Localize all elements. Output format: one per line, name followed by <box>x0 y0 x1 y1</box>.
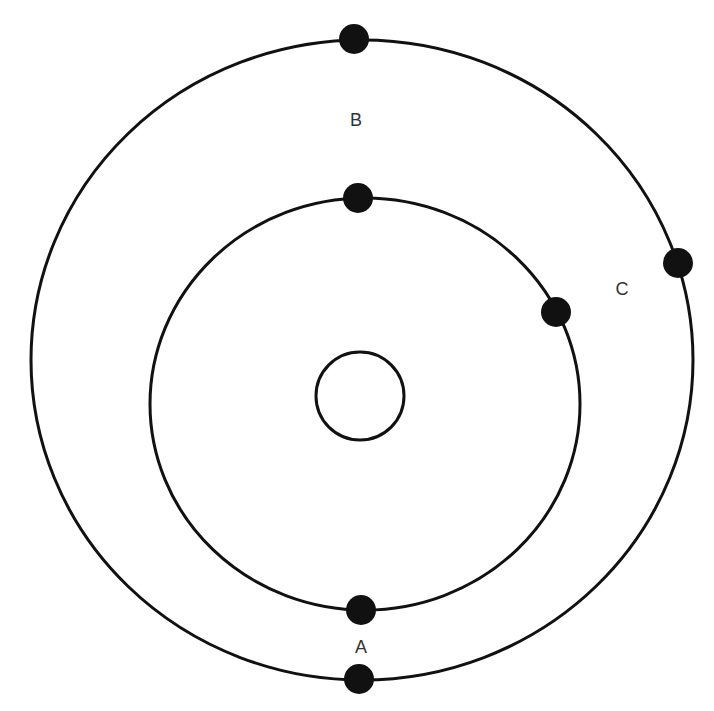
nucleus <box>316 352 404 440</box>
electron-outer-right <box>663 248 693 278</box>
outer-shell <box>31 40 693 680</box>
electron-outer-bottom <box>344 664 374 694</box>
inner-shell <box>150 198 580 610</box>
label-a: A <box>355 637 367 658</box>
label-c: C <box>616 279 629 300</box>
atom-diagram <box>0 0 714 711</box>
electron-inner-right <box>541 297 571 327</box>
electron-inner-bottom <box>346 595 376 625</box>
electron-outer-top <box>339 24 369 54</box>
electron-inner-top <box>343 183 373 213</box>
label-b: B <box>350 110 362 131</box>
